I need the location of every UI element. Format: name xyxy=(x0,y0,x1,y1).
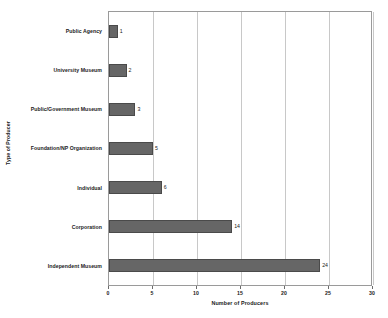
x-tick-label: 5 xyxy=(151,290,154,296)
bar-value-label: 6 xyxy=(164,185,167,190)
x-tick-label: 25 xyxy=(325,290,331,296)
x-axis-title: Number of Producers xyxy=(108,300,372,306)
y-axis-category-labels: Public AgencyUniversity MuseumPublic/Gov… xyxy=(8,11,105,286)
x-axis-ticks: 051015202530 xyxy=(108,286,372,298)
bar-row: 2 xyxy=(109,51,371,90)
x-tick-label: 15 xyxy=(237,290,243,296)
bar xyxy=(109,103,135,116)
bar-value-label: 24 xyxy=(322,263,328,268)
bar xyxy=(109,64,127,77)
plot-area: 123561424 xyxy=(108,11,372,286)
bar xyxy=(109,142,153,155)
bar-row: 1 xyxy=(109,12,371,51)
x-tick-mark xyxy=(284,286,285,289)
x-tick-mark xyxy=(152,286,153,289)
bar-value-label: 1 xyxy=(120,29,123,34)
bar xyxy=(109,259,320,272)
bar xyxy=(109,220,232,233)
x-tick-label: 30 xyxy=(369,290,375,296)
x-tick-mark xyxy=(372,286,373,289)
bar-row: 6 xyxy=(109,168,371,207)
x-tick-label: 0 xyxy=(107,290,110,296)
bar-row: 3 xyxy=(109,90,371,129)
x-tick-mark xyxy=(196,286,197,289)
bar xyxy=(109,181,162,194)
x-tick-mark xyxy=(108,286,109,289)
category-label: Foundation/NP Organization xyxy=(8,129,105,168)
category-label: Public/Government Museum xyxy=(8,90,105,129)
bar-series: 123561424 xyxy=(109,12,371,285)
bar-value-label: 5 xyxy=(155,146,158,151)
bar-row: 24 xyxy=(109,246,371,285)
x-tick-label: 10 xyxy=(193,290,199,296)
x-tick-mark xyxy=(328,286,329,289)
category-label: Corporation xyxy=(8,207,105,246)
gridline xyxy=(373,12,374,285)
bar-value-label: 3 xyxy=(137,107,140,112)
category-label: University Museum xyxy=(8,50,105,89)
bar-value-label: 2 xyxy=(129,68,132,73)
x-tick-mark xyxy=(240,286,241,289)
bar-row: 5 xyxy=(109,129,371,168)
category-label: Individual xyxy=(8,168,105,207)
bar xyxy=(109,25,118,38)
bar-row: 14 xyxy=(109,207,371,246)
category-label: Independent Museum xyxy=(8,247,105,286)
x-tick-label: 20 xyxy=(281,290,287,296)
bar-chart: Type of Producer Public AgencyUniversity… xyxy=(0,0,388,318)
category-label: Public Agency xyxy=(8,11,105,50)
bar-value-label: 14 xyxy=(234,224,240,229)
